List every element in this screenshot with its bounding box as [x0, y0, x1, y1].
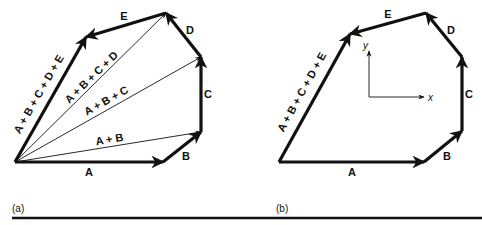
vector-arrow-d [426, 13, 462, 57]
panel-b: A + B + C + D + EABCDExy(b) [275, 8, 473, 214]
vector-addition-figure: A + BA + B + CA + B + C + DA + B + C + D… [0, 0, 482, 225]
resultant-arrow-a-b-c-d-e [279, 34, 350, 162]
panel-a: A + BA + B + CA + B + C + DA + B + C + D… [11, 10, 212, 214]
vector-label-d: D [186, 24, 194, 36]
panel-caption-b: (b) [276, 203, 288, 214]
vector-label-c: C [465, 88, 473, 100]
vector-label-e: E [384, 8, 391, 20]
panel-caption-a: (a) [12, 203, 24, 214]
vector-label-a: A [85, 166, 93, 178]
vector-label-b: B [443, 150, 451, 162]
x-axis-label: x [427, 92, 434, 103]
figure-canvas: A + BA + B + CA + B + C + DA + B + C + D… [0, 0, 482, 225]
coordinate-axes: xy [362, 40, 434, 103]
vector-label-c: C [204, 88, 212, 100]
vector-label-d: D [447, 24, 455, 36]
vector-arrow-d [166, 13, 201, 57]
vector-label-b: B [182, 150, 190, 162]
vector-label-a: A [348, 166, 356, 178]
vector-label-e: E [120, 10, 127, 22]
y-axis-label: y [362, 40, 369, 51]
